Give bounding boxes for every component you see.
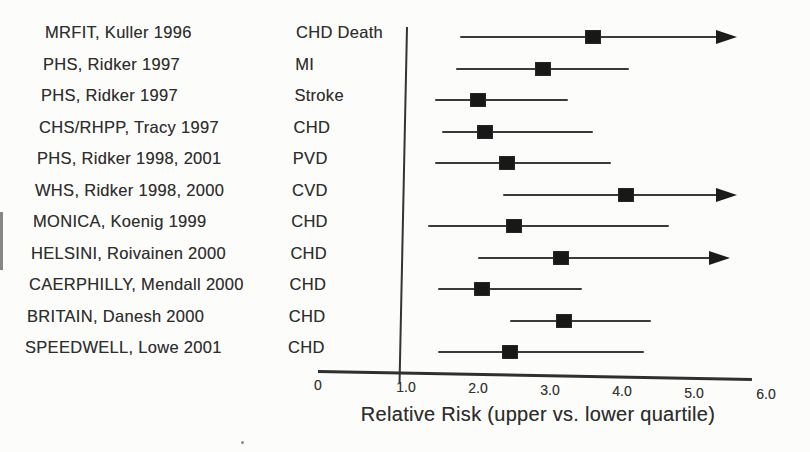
x-tick-label: 0 bbox=[298, 377, 338, 393]
outcome-label: CHD bbox=[290, 274, 327, 294]
study-label: MONICA, Koenig 1999 bbox=[33, 211, 207, 231]
relative-risk-marker bbox=[553, 251, 569, 265]
relative-risk-marker bbox=[556, 314, 572, 328]
outcome-label: CHD bbox=[294, 117, 331, 137]
relative-risk-marker bbox=[618, 188, 634, 202]
x-tick-label: 3.0 bbox=[530, 382, 570, 398]
study-label: WHS, Ridker 1998, 2000 bbox=[35, 180, 224, 200]
outcome-label: CVD bbox=[292, 180, 328, 200]
relative-risk-marker bbox=[499, 156, 515, 170]
x-axis-title: Relative Risk (upper vs. lower quartile) bbox=[336, 403, 740, 426]
study-label: PHS, Ridker 1998, 2001 bbox=[37, 148, 222, 168]
outcome-label: CHD bbox=[291, 211, 328, 231]
x-axis-line bbox=[318, 370, 752, 380]
confidence-interval-line bbox=[428, 225, 669, 227]
x-tick-label: 5.0 bbox=[674, 385, 714, 401]
reference-line-rr-1 bbox=[399, 27, 408, 383]
outcome-label: CHD Death bbox=[296, 22, 383, 42]
arrow-right-icon bbox=[716, 30, 737, 44]
x-tick-label: 2.0 bbox=[458, 380, 498, 396]
outcome-label: CHD bbox=[288, 337, 325, 357]
x-tick-label: 6.0 bbox=[746, 386, 786, 402]
confidence-interval-line bbox=[478, 257, 711, 259]
study-label: BRITAIN, Danesh 2000 bbox=[27, 306, 204, 326]
relative-risk-marker bbox=[585, 30, 601, 44]
scan-edge-artifact bbox=[0, 212, 3, 270]
study-label: CHS/RHPP, Tracy 1997 bbox=[39, 117, 219, 137]
relative-risk-marker bbox=[535, 62, 551, 76]
study-label: CAERPHILLY, Mendall 2000 bbox=[29, 274, 244, 294]
study-label: HELSINI, Roivainen 2000 bbox=[31, 243, 226, 263]
forest-plot-figure: MRFIT, Kuller 1996PHS, Ridker 1997PHS, R… bbox=[0, 0, 810, 452]
relative-risk-marker bbox=[470, 93, 486, 107]
x-tick-label: 4.0 bbox=[602, 383, 642, 399]
confidence-interval-line bbox=[435, 99, 568, 101]
confidence-interval-line bbox=[438, 351, 643, 353]
relative-risk-marker bbox=[502, 345, 518, 359]
relative-risk-marker bbox=[506, 219, 522, 233]
relative-risk-marker bbox=[474, 282, 490, 296]
outcome-label: CHD bbox=[289, 306, 326, 326]
outcome-label: MI bbox=[295, 54, 314, 74]
relative-risk-marker bbox=[477, 125, 493, 139]
confidence-interval-line bbox=[510, 320, 650, 322]
study-label: PHS, Ridker 1997 bbox=[41, 85, 178, 105]
arrow-right-icon bbox=[716, 188, 737, 202]
confidence-interval-line bbox=[442, 131, 593, 133]
study-label: MRFIT, Kuller 1996 bbox=[45, 22, 192, 42]
scan-speck bbox=[241, 441, 244, 444]
arrow-right-icon bbox=[709, 251, 730, 265]
outcome-label: CHD bbox=[290, 243, 327, 263]
x-tick-label: 1.0 bbox=[386, 379, 426, 395]
study-label: SPEEDWELL, Lowe 2001 bbox=[25, 337, 222, 357]
confidence-interval-line bbox=[438, 288, 582, 290]
study-label: PHS, Ridker 1997 bbox=[43, 54, 180, 74]
confidence-interval-line bbox=[503, 194, 718, 196]
outcome-label: PVD bbox=[293, 148, 328, 168]
outcome-label: Stroke bbox=[294, 85, 344, 105]
confidence-interval-line bbox=[435, 162, 611, 164]
